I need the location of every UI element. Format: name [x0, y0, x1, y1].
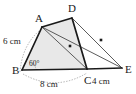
- geometry-canvas: A B C D E 6 cm 8 cm 4 cm 60°: [0, 0, 136, 94]
- measure-label-ce: 4 cm: [92, 76, 110, 86]
- tick-mark-ae: [69, 45, 72, 48]
- vertex-label-c: C: [84, 74, 91, 86]
- segment-b-c: [22, 69, 87, 70]
- vertex-label-a: A: [35, 12, 43, 24]
- vertex-label-d: D: [68, 2, 76, 14]
- vertex-label-e: E: [125, 63, 132, 75]
- measure-label-bc: 8 cm: [40, 79, 58, 89]
- geometry-figure: A B C D E 6 cm 8 cm 4 cm 60°: [0, 0, 136, 94]
- measure-label-ab: 6 cm: [3, 36, 21, 46]
- tick-mark-de: [100, 39, 103, 42]
- segment-c-e: [87, 68, 122, 69]
- vertex-label-b: B: [12, 64, 19, 76]
- angle-label-b: 60°: [29, 59, 40, 68]
